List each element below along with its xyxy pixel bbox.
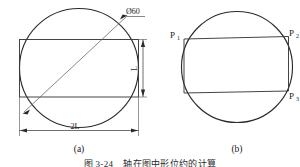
point-label-p3: P (289, 91, 294, 101)
dim-2l-arrow-left-icon (20, 128, 27, 132)
point-label-p2: P (289, 28, 294, 38)
circle-a (20, 9, 139, 128)
rectangle-a (20, 40, 139, 98)
point-label-p1-subscript: 1 (177, 35, 180, 41)
diameter-label: Ø60 (126, 7, 140, 16)
point-label-p3-subscript: 3 (296, 96, 299, 102)
diameter-leader-line (24, 17, 126, 112)
dim-l-arrow-bottom-icon (141, 90, 145, 97)
figure-caption-clip: 图 3-24轴在图中形位约的计算 (0, 158, 300, 167)
point-label-p2-subscript: 2 (296, 33, 299, 39)
figure-caption: 图 3-24轴在图中形位约的计算 (0, 158, 300, 167)
panel-a-group: Ø60 L 2L (a) (20, 7, 148, 156)
width-label: 2L (71, 122, 80, 131)
panel-b-sublabel: (b) (231, 144, 242, 155)
engineering-drawing-canvas: Ø60 L 2L (a) (0, 0, 300, 167)
point-label-p1: P (170, 30, 175, 40)
panel-b-group: P 1 P 2 P 3 (b) (170, 12, 299, 156)
figure-caption-text: 轴在图中形位约的计算 (123, 159, 216, 167)
height-label: L (130, 66, 139, 71)
circle-b (182, 12, 293, 123)
panel-a-sublabel: (a) (74, 144, 85, 155)
rectangle-b (184, 37, 289, 94)
dim-l-arrow-top-icon (141, 40, 145, 47)
figure-caption-number: 图 3-24 (84, 159, 114, 167)
dim-2l-arrow-right-icon (131, 128, 138, 132)
figure-container: Ø60 L 2L (a) (0, 0, 300, 167)
